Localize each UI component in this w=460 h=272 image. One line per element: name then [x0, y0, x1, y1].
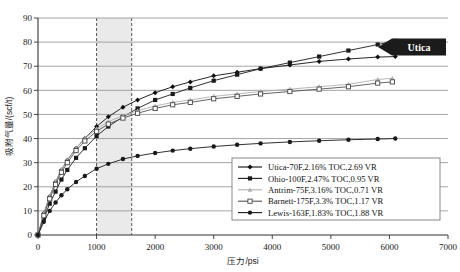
x-axis-tick-label: 5000 — [322, 242, 341, 252]
data-point — [188, 86, 192, 90]
data-point — [212, 144, 216, 148]
data-point — [248, 176, 252, 180]
data-point — [171, 103, 175, 107]
data-point — [171, 148, 175, 152]
data-point — [235, 73, 239, 77]
data-point — [106, 162, 110, 166]
data-point — [346, 85, 350, 89]
data-point — [94, 129, 98, 133]
legend-label: Antrim-75F,3.16% TOC,0.71 VR — [268, 185, 383, 195]
data-point — [42, 214, 46, 218]
y-axis-tick-label: 0 — [28, 230, 33, 240]
data-point — [65, 161, 69, 165]
legend-label: Lewis-163F,1.83% TOC,1.88 VR — [268, 208, 384, 218]
y-axis-tick-label: 90 — [23, 13, 33, 23]
data-point — [212, 97, 216, 101]
data-point — [288, 89, 292, 93]
data-point — [94, 166, 98, 170]
y-axis-tick-label: 10 — [23, 206, 33, 216]
y-axis-tick-label: 40 — [23, 134, 33, 144]
data-point — [317, 87, 321, 91]
data-point — [235, 94, 239, 98]
legend-label: Barnett-175F,3.3% TOC,1.17 VR — [268, 196, 384, 206]
utica-arrow-label: Utica — [408, 42, 431, 53]
data-point — [121, 116, 125, 120]
data-point — [83, 139, 87, 143]
chart-container: 0102030405060708090010002000300040005000… — [0, 0, 460, 272]
data-point — [135, 111, 139, 115]
data-point — [83, 174, 87, 178]
utica-arrow-callout: Utica — [378, 39, 446, 56]
y-axis-tick-label: 30 — [23, 158, 33, 168]
data-point — [153, 106, 157, 110]
x-axis-tick-label: 3000 — [205, 242, 224, 252]
data-point — [53, 190, 57, 194]
data-point — [65, 187, 69, 191]
data-point — [53, 200, 57, 204]
data-point — [48, 209, 52, 213]
data-point — [376, 81, 380, 85]
y-axis-title: 吸附气量/(scf/t) — [4, 97, 14, 157]
x-axis-tick-label: 7000 — [439, 242, 458, 252]
y-axis-tick-label: 80 — [23, 37, 33, 47]
y-axis-tick-label: 50 — [23, 110, 33, 120]
data-point — [106, 122, 110, 126]
data-point — [153, 98, 157, 102]
data-point — [390, 80, 394, 84]
data-point — [153, 151, 157, 155]
x-axis-tick-label: 2000 — [146, 242, 165, 252]
data-point — [248, 199, 252, 203]
data-point — [53, 182, 57, 186]
data-point — [74, 180, 78, 184]
data-point — [65, 168, 69, 172]
data-point — [288, 61, 292, 65]
data-point — [317, 139, 321, 143]
data-point — [188, 146, 192, 150]
data-point — [121, 157, 125, 161]
data-point — [376, 137, 380, 141]
data-point — [346, 138, 350, 142]
x-axis-title: 压力/psi — [227, 256, 258, 266]
data-point — [258, 67, 262, 71]
data-point — [94, 134, 98, 138]
x-axis-tick-label: 6000 — [380, 242, 399, 252]
legend-label: Utica-70F,2.16% TOC,2.69 VR — [268, 162, 377, 172]
data-point — [83, 146, 87, 150]
data-point — [135, 154, 139, 158]
y-axis-tick-label: 70 — [23, 61, 33, 71]
data-point — [258, 141, 262, 145]
x-axis-tick-label: 0 — [36, 242, 41, 252]
data-point — [188, 100, 192, 104]
data-point — [59, 170, 63, 174]
legend: Utica-70F,2.16% TOC,2.69 VROhio-100F,2.4… — [232, 158, 440, 220]
shaded-band-region — [97, 18, 132, 235]
legend-label: Ohio-100F,2.47% TOC,0.95 VR — [268, 174, 380, 184]
y-axis-tick-label: 60 — [23, 86, 33, 96]
data-point — [171, 92, 175, 96]
data-point — [235, 143, 239, 147]
data-point — [317, 54, 321, 58]
data-point — [36, 233, 40, 237]
x-axis-tick-label: 4000 — [263, 242, 282, 252]
data-point — [59, 193, 63, 197]
data-point — [42, 220, 46, 224]
data-point — [393, 136, 397, 140]
adsorption-isotherm-chart: 0102030405060708090010002000300040005000… — [0, 0, 460, 272]
data-point — [74, 156, 78, 160]
data-point — [212, 79, 216, 83]
data-point — [258, 92, 262, 96]
data-point — [376, 42, 380, 46]
data-point — [248, 210, 252, 214]
y-axis-tick-label: 20 — [23, 182, 33, 192]
data-point — [74, 149, 78, 153]
data-point — [59, 177, 63, 181]
data-point — [346, 48, 350, 52]
data-point — [48, 197, 52, 201]
x-axis-tick-label: 1000 — [88, 242, 107, 252]
data-point — [288, 140, 292, 144]
